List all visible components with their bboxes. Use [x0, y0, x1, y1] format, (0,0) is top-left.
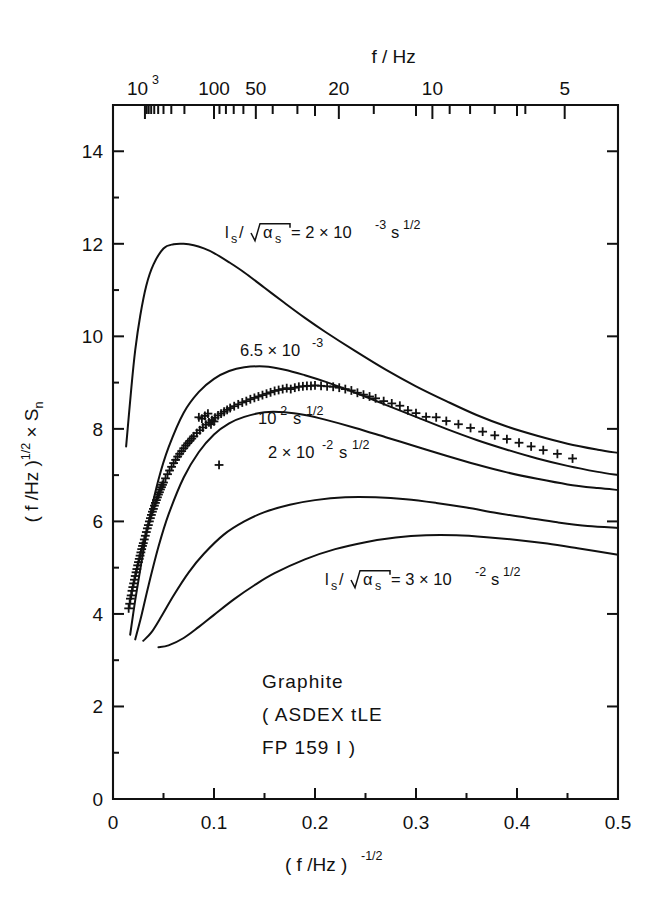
plus-marker — [503, 435, 512, 444]
plus-marker — [478, 427, 487, 436]
plus-marker — [442, 417, 451, 426]
model-curve — [126, 244, 618, 453]
plus-marker — [274, 386, 283, 395]
svg-text:100: 100 — [198, 78, 230, 99]
plus-marker — [246, 395, 255, 404]
bottom-tick-label: 0 — [108, 812, 119, 833]
curve-label: 2 × 10-2 s1/2 — [268, 438, 369, 461]
plus-marker — [215, 461, 224, 470]
plot-frame — [113, 105, 618, 799]
svg-text:s: s — [231, 232, 237, 246]
left-tick-label: 12 — [82, 234, 103, 255]
plus-marker — [234, 400, 243, 409]
model-curve — [158, 535, 618, 647]
svg-text:α: α — [263, 223, 273, 241]
svg-text:s: s — [293, 409, 301, 427]
plus-marker — [254, 392, 263, 401]
svg-text:/: / — [239, 223, 244, 241]
plus-marker — [466, 424, 475, 433]
svg-text:( f /Hz )1/2 × Sn: ( f /Hz )1/2 × Sn — [19, 401, 46, 522]
plus-marker — [266, 388, 275, 397]
left-tick-label: 6 — [92, 511, 103, 532]
svg-text:s: s — [331, 579, 337, 593]
plus-marker — [432, 413, 441, 422]
text-labels: ( f /Hz )-1/2( f /Hz )1/2 × Snls /αs = 2… — [19, 218, 520, 875]
top-tick-label: 103 — [127, 73, 159, 99]
svg-text:-3: -3 — [375, 218, 386, 232]
left-tick-label: 8 — [92, 419, 103, 440]
plus-marker — [553, 449, 562, 458]
bottom-tick-label: 0.5 — [605, 812, 631, 833]
svg-text:1/2: 1/2 — [352, 438, 369, 452]
curve-label: 10-2 s1/2 — [258, 404, 323, 427]
plus-marker — [262, 389, 271, 398]
left-tick-label: 14 — [82, 141, 104, 162]
svg-text:( f /Hz ): ( f /Hz ) — [285, 854, 347, 875]
figure-root: 02468101214 00.10.20.30.40.5 10310050201… — [0, 0, 662, 906]
annotation-line: FP 159 I ) — [262, 737, 356, 758]
top-tick-label: 100 — [198, 78, 230, 99]
top-tick-label: 50 — [245, 78, 266, 99]
annotation-line: Graphite — [262, 671, 344, 692]
plus-marker — [250, 393, 259, 402]
svg-text:3: 3 — [152, 73, 159, 87]
svg-text:s: s — [275, 232, 281, 246]
svg-text:/: / — [339, 570, 344, 588]
left-tick-label: 2 — [92, 696, 103, 717]
svg-text:l: l — [225, 223, 229, 241]
curve-label: 6.5 × 10-3 — [240, 336, 323, 359]
svg-text:-2: -2 — [322, 438, 333, 452]
svg-text:s: s — [491, 570, 499, 588]
plus-marker — [270, 387, 279, 396]
svg-text:-2: -2 — [475, 565, 486, 579]
plus-marker — [454, 420, 463, 429]
plus-marker — [290, 383, 299, 392]
left-tick-label: 4 — [92, 604, 103, 625]
svg-text:α: α — [363, 570, 373, 588]
plus-marker — [124, 604, 133, 613]
plus-marker — [282, 384, 291, 393]
svg-text:6.5 × 10: 6.5 × 10 — [240, 341, 300, 359]
svg-text:s: s — [339, 443, 347, 461]
svg-text:= 2 × 10: = 2 × 10 — [291, 223, 352, 241]
svg-text:1/2: 1/2 — [306, 404, 323, 418]
svg-text:10: 10 — [127, 78, 148, 99]
svg-text:1/2: 1/2 — [503, 565, 520, 579]
svg-text:1/2: 1/2 — [403, 218, 420, 232]
curve-label: ls /αs = 3 × 10-2 s1/2 — [325, 565, 520, 593]
plus-marker — [286, 385, 295, 394]
top-axis-ticks: 1031005020105f / Hz — [127, 46, 618, 119]
svg-text:5: 5 — [559, 78, 570, 99]
sample-annotation: Graphite( ASDEX tLEFP 159 I ) — [262, 671, 383, 758]
bottom-tick-label: 0.3 — [403, 812, 429, 833]
svg-text:-1/2: -1/2 — [361, 849, 383, 863]
top-axis-title: f / Hz — [371, 46, 415, 67]
bottom-tick-label: 0.1 — [201, 812, 227, 833]
plus-marker — [242, 397, 251, 406]
bottom-tick-label: 0.2 — [302, 812, 328, 833]
plus-marker — [515, 438, 524, 447]
top-tick-label: 5 — [559, 78, 570, 99]
annotation-line: ( ASDEX tLE — [262, 704, 383, 725]
svg-text:l: l — [325, 570, 329, 588]
svg-text:-3: -3 — [312, 336, 323, 350]
left-axis-title: ( f /Hz )1/2 × Sn — [19, 401, 46, 522]
curve-label: ls /αs = 2 × 10-3 s1/2 — [225, 218, 420, 246]
left-tick-label: 10 — [82, 326, 103, 347]
top-tick-label: 10 — [422, 78, 443, 99]
bottom-tick-label: 0.4 — [504, 812, 531, 833]
plus-marker — [490, 431, 499, 440]
left-tick-label: 0 — [92, 789, 103, 810]
bottom-axis-title: ( f /Hz )-1/2 — [285, 849, 383, 875]
svg-text:10: 10 — [422, 78, 443, 99]
plus-marker — [238, 398, 247, 407]
model-curve — [135, 412, 618, 640]
plus-marker — [527, 442, 536, 451]
model-curve — [143, 497, 618, 641]
plus-marker — [341, 385, 350, 394]
plus-marker — [539, 446, 548, 455]
svg-text:s: s — [391, 223, 399, 241]
svg-text:s: s — [375, 579, 381, 593]
svg-text:2 × 10: 2 × 10 — [268, 443, 314, 461]
svg-text:50: 50 — [245, 78, 266, 99]
